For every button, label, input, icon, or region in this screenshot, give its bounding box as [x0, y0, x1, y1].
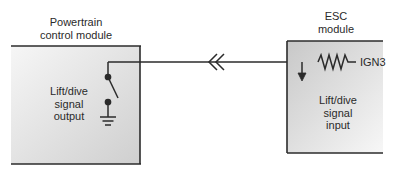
- pcm-title: Powertrain control module: [40, 16, 112, 41]
- esc-signal-label: Lift/dive signal input: [319, 94, 357, 132]
- pcm-signal-label: Lift/dive signal output: [50, 85, 88, 123]
- ign3-label: IGN3: [360, 56, 386, 68]
- esc-title: ESC module: [318, 10, 354, 35]
